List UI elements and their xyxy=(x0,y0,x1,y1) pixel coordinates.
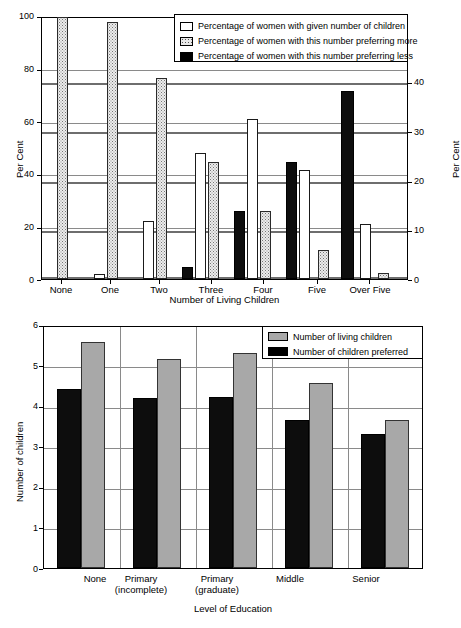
bar-middle-preferred xyxy=(285,420,309,568)
bar-one-preferring-more xyxy=(107,22,118,279)
legend-swatch-black2-icon xyxy=(268,347,288,356)
bar-one-given-number xyxy=(94,274,105,279)
bar-none-preferring-more xyxy=(57,17,68,279)
legend-item-given-number: Percentage of women with given number of… xyxy=(180,19,402,33)
bottom-chart-vgrid-4 xyxy=(348,327,349,568)
bottom-chart-xtick-middle: Middle xyxy=(250,573,330,584)
top-chart-ytick-60: 60 xyxy=(6,118,34,127)
top-chart-y2tick-0: 0 xyxy=(414,276,438,285)
legend-item-children-preferred: Number of children preferred xyxy=(268,345,417,358)
bar-five-preferring-more xyxy=(318,250,329,279)
top-chart-x-axis-title: Number of Living Children xyxy=(41,294,408,305)
bottom-chart-vgrid-2 xyxy=(196,327,197,568)
legend-swatch-black-icon xyxy=(180,52,193,61)
bottom-chart-ytick-2: 2 xyxy=(12,483,38,492)
bottom-chart-ytick-4: 4 xyxy=(12,402,38,411)
bar-middle-living xyxy=(309,383,333,568)
bar-primary-graduate-living xyxy=(233,353,257,568)
legend-item-living-children: Number of living children xyxy=(268,330,417,343)
top-chart-ytick-20: 20 xyxy=(6,223,34,232)
bottom-chart-ytick-5: 5 xyxy=(12,362,38,371)
bottom-chart-vgrid-1 xyxy=(120,327,121,568)
bar-four-preferring-less xyxy=(234,211,245,279)
bar-three-preferring-more xyxy=(208,162,219,279)
top-chart-y2-axis-title: Per Cent xyxy=(450,141,461,179)
bottom-chart-ytick-6: 6 xyxy=(12,321,38,330)
bottom-chart-xtick-senior: Senior xyxy=(326,573,406,584)
bottom-chart-xtick-pg-line2: (graduate) xyxy=(169,584,265,595)
legend-label-children-preferred: Number of children preferred xyxy=(293,347,408,357)
bar-primary-graduate-preferred xyxy=(209,397,233,568)
top-chart-y2tickmark-30 xyxy=(408,132,412,133)
legend-swatch-gray-icon xyxy=(268,332,288,341)
legend-label-preferring-more: Percentage of women with this number pre… xyxy=(198,36,418,46)
top-chart-xtick-one: One xyxy=(86,284,134,295)
top-chart-y2tickmark-10 xyxy=(408,231,412,232)
top-chart-xtick-none: None xyxy=(37,284,85,295)
bottom-chart-xtick-middle-line1: Middle xyxy=(250,573,330,584)
bar-five-given-number xyxy=(299,170,310,279)
top-chart-y2tick-40: 40 xyxy=(414,78,438,87)
top-chart-ytick-40: 40 xyxy=(6,170,34,179)
bar-five-preferring-less xyxy=(286,162,297,279)
bar-none-living xyxy=(81,342,105,568)
bottom-chart-ytick-3: 3 xyxy=(12,443,38,452)
bar-senior-preferred xyxy=(361,434,385,568)
bottom-chart-plot-area xyxy=(43,326,423,569)
top-chart-ytick-0: 0 xyxy=(6,276,34,285)
top-chart-y2tickmark-40 xyxy=(408,83,412,84)
chart-living-children-preferences: Per Cent Per Cent Number of Living Child… xyxy=(0,0,461,312)
top-chart-xtick-overfive: Over Five xyxy=(341,284,399,295)
legend-item-preferring-more: Percentage of women with this number pre… xyxy=(180,34,402,48)
bar-two-preferring-more xyxy=(156,78,167,279)
bar-overfive-given-number xyxy=(360,224,371,279)
top-chart-gridline2-40 xyxy=(42,83,407,85)
bottom-chart-vgrid-3 xyxy=(272,327,273,568)
legend-item-preferring-less: Percentage of women with this number pre… xyxy=(180,49,402,63)
top-chart-ytick-80: 80 xyxy=(6,65,34,74)
bottom-chart-ytickmark-0 xyxy=(39,569,43,570)
top-chart-xtick-four: Four xyxy=(239,284,287,295)
bar-primary-incomplete-preferred xyxy=(133,398,157,568)
bottom-chart-xtick-senior-line1: Senior xyxy=(326,573,406,584)
bar-three-preferring-less xyxy=(182,267,193,279)
legend-label-given-number: Percentage of women with given number of… xyxy=(198,21,405,31)
top-chart-xtick-five: Five xyxy=(293,284,341,295)
legend-label-preferring-less: Percentage of women with this number pre… xyxy=(198,51,413,61)
bar-primary-incomplete-living xyxy=(157,359,181,568)
bar-four-preferring-more xyxy=(260,211,271,279)
legend-label-living-children: Number of living children xyxy=(293,332,392,342)
bar-none-preferred xyxy=(57,389,81,568)
top-chart-gridline-80 xyxy=(42,70,407,71)
top-chart-y2tick-30: 30 xyxy=(414,128,438,137)
top-chart-y2tick-10: 10 xyxy=(414,226,438,235)
bar-senior-living xyxy=(385,420,409,568)
top-chart-ytickmark-0 xyxy=(37,280,41,281)
bottom-chart-ytick-0: 0 xyxy=(12,565,38,574)
bar-two-given-number xyxy=(143,221,154,279)
top-chart-y2tickmark-0 xyxy=(408,280,412,281)
bar-overfive-preferring-more xyxy=(378,273,389,279)
bottom-chart-ytick-1: 1 xyxy=(12,524,38,533)
bottom-chart-x-axis-title: Level of Education xyxy=(43,603,423,614)
legend-swatch-dotted-icon xyxy=(180,37,193,46)
legend-swatch-white-icon xyxy=(180,22,193,31)
bar-overfive-preferring-less xyxy=(341,91,354,279)
bottom-chart-legend: Number of living children Number of chil… xyxy=(262,326,423,359)
top-chart-ytick-100: 100 xyxy=(6,12,34,21)
bar-three-given-number xyxy=(195,153,206,279)
top-chart-xtick-two: Two xyxy=(135,284,183,295)
bar-four-given-number xyxy=(247,119,258,279)
top-chart-y2tick-20: 20 xyxy=(414,177,438,186)
chart-education-children: Number of children Level of Education 6 … xyxy=(0,312,461,628)
top-chart-y2tickmark-20 xyxy=(408,182,412,183)
top-chart-legend: Percentage of women with given number of… xyxy=(174,14,408,62)
top-chart-xtick-three: Three xyxy=(185,284,237,295)
